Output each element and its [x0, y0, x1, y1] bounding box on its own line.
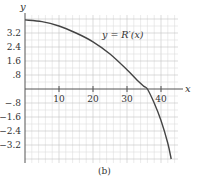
figure-caption: (b) [98, 166, 111, 176]
x-tick-label: 30 [121, 94, 133, 104]
x-tick-label: 10 [53, 94, 65, 104]
y-tick-label: 2.4 [7, 42, 22, 52]
y-tick-label: 3.2 [7, 28, 21, 38]
y-tick-label: 1.6 [7, 56, 22, 66]
y-tick-label: −3.2 [0, 140, 21, 150]
y-axis-label: y [19, 1, 26, 12]
x-tick-label: 20 [87, 94, 99, 104]
y-tick-label: −2.4 [0, 126, 21, 136]
chart: 102030403.22.41.6.8−.8−1.6−2.4−3.2 y x y… [0, 0, 197, 177]
y-tick-label: −.8 [5, 98, 21, 108]
y-tick-label: −1.6 [0, 112, 21, 122]
y-tick-label: .8 [12, 70, 21, 80]
x-axis-label: x [185, 83, 191, 94]
x-tick-label: 40 [155, 94, 167, 104]
curve-label: y = R′(x) [101, 29, 144, 40]
